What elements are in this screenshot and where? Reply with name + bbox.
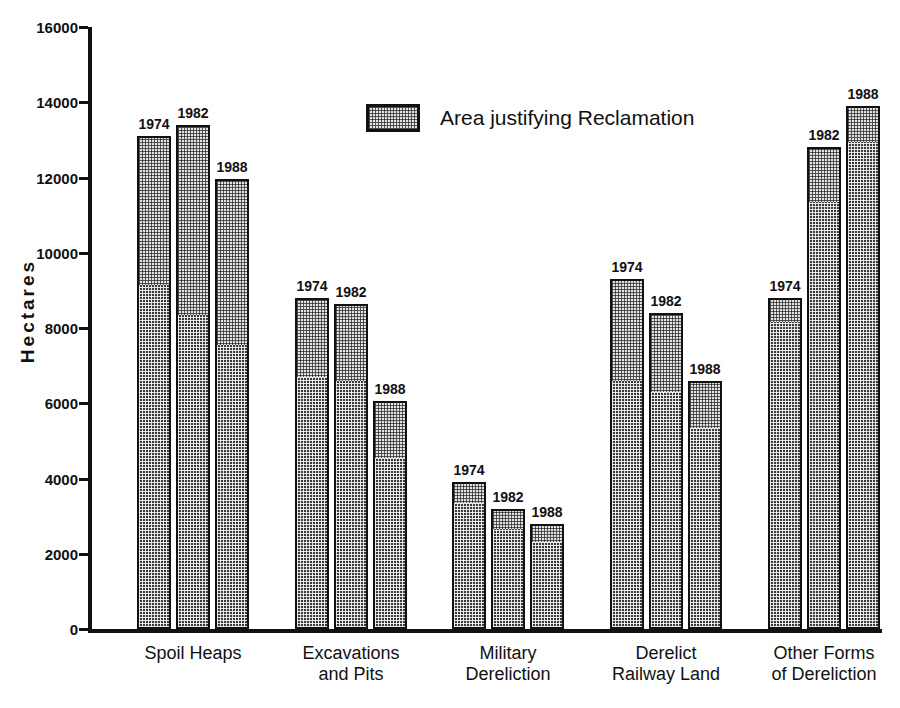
bar-year-label-1982: 1982 xyxy=(328,284,374,300)
x-axis-label-spoil-heaps: Spoil Heaps xyxy=(107,643,279,664)
x-axis-label-other-forms-of-dereliction: Other Forms of Dereliction xyxy=(738,643,900,684)
bar-segment-reclamation xyxy=(375,403,405,461)
bar-segment-other xyxy=(178,315,208,627)
bar-segment-reclamation xyxy=(336,306,366,385)
bar-segment-other xyxy=(336,381,366,627)
x-axis-line xyxy=(88,629,882,633)
bar-year-label-1982: 1982 xyxy=(801,127,847,143)
bar-excavations-and-pits-1974 xyxy=(295,298,329,629)
bar-military-dereliction-1988 xyxy=(530,524,564,629)
plot-area: 1974198219881974198219881974198219881974… xyxy=(0,0,900,629)
bar-year-label-1988: 1988 xyxy=(840,86,886,102)
bar-segment-other xyxy=(809,202,839,627)
legend-swatch-area-justifying-reclamation xyxy=(366,104,420,132)
bar-segment-other xyxy=(612,381,642,627)
x-axis-label-excavations-and-pits: Excavations and Pits xyxy=(265,643,437,684)
bar-segment-reclamation xyxy=(809,149,839,205)
bar-year-label-1988: 1988 xyxy=(524,504,570,520)
bar-segment-other xyxy=(770,322,800,627)
bar-year-label-1988: 1988 xyxy=(682,361,728,377)
bar-military-dereliction-1982 xyxy=(491,509,525,629)
bar-segment-other xyxy=(297,377,327,627)
bar-year-label-1974: 1974 xyxy=(604,259,650,275)
bar-derelict-railway-land-1988 xyxy=(688,381,722,629)
x-axis-label-derelict-railway-land: Derelict Railway Land xyxy=(580,643,752,684)
bar-spoil-heaps-1974 xyxy=(137,136,171,629)
bar-segment-reclamation xyxy=(690,383,720,432)
bar-spoil-heaps-1988 xyxy=(215,179,249,629)
bar-segment-other xyxy=(848,142,878,627)
bar-year-label-1974: 1974 xyxy=(446,462,492,478)
bar-segment-other xyxy=(532,542,562,627)
bar-year-label-1982: 1982 xyxy=(485,489,531,505)
bar-year-label-1988: 1988 xyxy=(209,159,255,175)
bar-segment-other xyxy=(690,428,720,627)
bar-military-dereliction-1974 xyxy=(452,482,486,629)
bar-other-forms-of-dereliction-1988 xyxy=(846,106,880,629)
bar-chart: Hectares 0200040006000800010000120001400… xyxy=(0,0,900,708)
bar-other-forms-of-dereliction-1974 xyxy=(768,298,802,629)
bar-year-label-1982: 1982 xyxy=(170,105,216,121)
bar-segment-other xyxy=(493,529,523,627)
bar-excavations-and-pits-1988 xyxy=(373,401,407,629)
bar-segment-other xyxy=(139,285,169,627)
bar-segment-reclamation xyxy=(217,181,247,348)
bar-segment-reclamation xyxy=(297,300,327,381)
bar-segment-other xyxy=(651,392,681,627)
bar-derelict-railway-land-1982 xyxy=(649,313,683,629)
bar-year-label-1982: 1982 xyxy=(643,293,689,309)
bar-year-label-1988: 1988 xyxy=(367,381,413,397)
bar-spoil-heaps-1982 xyxy=(176,125,210,629)
bar-segment-other xyxy=(454,503,484,627)
legend-label-area-justifying-reclamation: Area justifying Reclamation xyxy=(440,106,694,130)
bar-segment-reclamation xyxy=(178,127,208,319)
bar-segment-reclamation xyxy=(139,138,169,289)
bar-segment-reclamation xyxy=(612,281,642,384)
bar-segment-other xyxy=(375,458,405,627)
chart-legend: Area justifying Reclamation xyxy=(366,104,694,132)
bar-other-forms-of-dereliction-1982 xyxy=(807,147,841,629)
bar-excavations-and-pits-1982 xyxy=(334,304,368,629)
bar-segment-other xyxy=(217,345,247,627)
bar-segment-reclamation xyxy=(848,108,878,146)
bar-derelict-railway-land-1974 xyxy=(610,279,644,629)
bar-segment-reclamation xyxy=(651,315,681,396)
x-axis-label-military-dereliction: Military Dereliction xyxy=(422,643,594,684)
bar-year-label-1974: 1974 xyxy=(762,278,808,294)
